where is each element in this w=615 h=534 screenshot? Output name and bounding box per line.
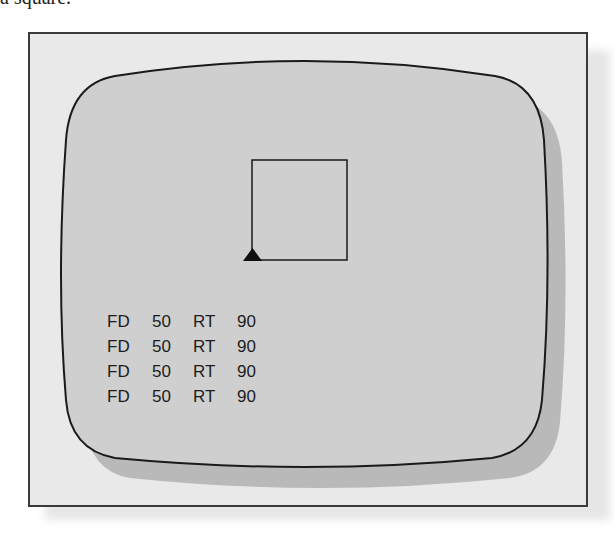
command-line: FD 50 RT 90 [107, 362, 287, 387]
command-arg: 50 [152, 362, 171, 382]
command-arg: 50 [152, 387, 171, 407]
turn-arg: 90 [237, 362, 256, 382]
turn-arg: 90 [237, 387, 256, 407]
command-line: FD 50 RT 90 [107, 312, 287, 337]
turn-keyword: RT [193, 312, 215, 332]
turn-keyword: RT [193, 387, 215, 407]
command-line: FD 50 RT 90 [107, 387, 287, 412]
command-keyword: FD [107, 312, 130, 332]
turn-keyword: RT [193, 337, 215, 357]
command-list: FD 50 RT 90 FD 50 RT 90 FD 50 RT 90 FD 5… [107, 312, 287, 412]
command-arg: 50 [152, 312, 171, 332]
command-keyword: FD [107, 387, 130, 407]
command-arg: 50 [152, 337, 171, 357]
turn-arg: 90 [237, 337, 256, 357]
crt-screen [0, 0, 615, 534]
turn-keyword: RT [193, 362, 215, 382]
command-line: FD 50 RT 90 [107, 337, 287, 362]
command-keyword: FD [107, 362, 130, 382]
turn-arg: 90 [237, 312, 256, 332]
command-keyword: FD [107, 337, 130, 357]
